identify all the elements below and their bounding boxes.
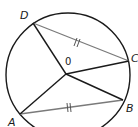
label-b: B: [126, 102, 134, 115]
label-c: C: [131, 52, 138, 65]
radius-oc: [66, 61, 129, 74]
radii: [20, 23, 129, 114]
label-d: D: [20, 9, 28, 22]
circle-diagram: D C B A 0: [0, 0, 138, 127]
radius-oa: [20, 74, 66, 114]
label-a: A: [7, 116, 16, 127]
chord-ab: [20, 100, 123, 114]
radius-od: [33, 23, 66, 74]
radius-ob: [66, 74, 123, 100]
label-center-o: 0: [65, 56, 71, 67]
chord-dc: [33, 23, 129, 61]
